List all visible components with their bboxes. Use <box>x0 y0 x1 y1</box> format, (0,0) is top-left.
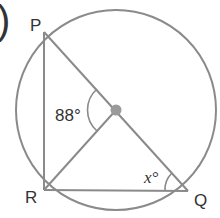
label-q: Q <box>194 191 207 210</box>
center-dot <box>111 105 122 116</box>
partial-bracket: ) <box>0 0 10 42</box>
angle-label-x: x° <box>143 168 159 187</box>
angle-arc-center <box>88 89 97 131</box>
label-p: P <box>30 16 41 35</box>
circle-diagram: ) P R Q 88° x° <box>0 0 220 218</box>
segment-rq <box>44 190 188 191</box>
label-r: R <box>25 188 37 207</box>
angle-label-88: 88° <box>55 106 81 125</box>
angle-arc-q <box>165 173 172 191</box>
